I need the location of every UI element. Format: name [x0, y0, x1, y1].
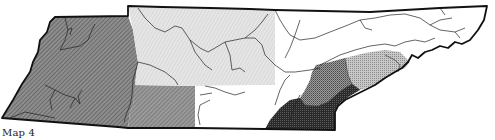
- region-west-central-south: [128, 85, 195, 128]
- map-caption: Map 4: [2, 127, 35, 139]
- tennessee-regions-map: [0, 0, 495, 140]
- region-north-central: [128, 6, 275, 86]
- region-west: [2, 16, 138, 128]
